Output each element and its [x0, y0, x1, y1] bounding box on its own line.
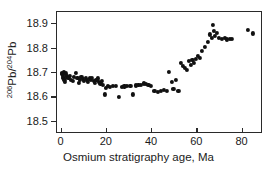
data-point [149, 84, 153, 88]
y-axis-tick-label: 18.5 [27, 115, 48, 127]
x-axis-tick-label: 80 [236, 135, 248, 147]
data-point [198, 56, 202, 60]
data-point [200, 49, 204, 53]
data-point [117, 95, 121, 99]
x-axis-tick-label: 40 [145, 135, 157, 147]
data-point [77, 81, 81, 85]
y-axis-label-numerator-superscript: 206 [4, 86, 13, 99]
data-point [192, 61, 196, 65]
x-axis-tick [61, 128, 62, 133]
data-point [250, 31, 254, 35]
x-axis-tick-label: 60 [190, 135, 202, 147]
data-point [164, 88, 168, 92]
data-point [176, 88, 180, 92]
x-axis-tick-label: 20 [100, 135, 112, 147]
data-point [167, 69, 171, 73]
x-axis-label: Osmium stratigraphy age, Ma [0, 151, 277, 163]
data-point [74, 71, 78, 75]
y-axis-label-denominator-superscript: 204 [4, 56, 13, 69]
x-axis-tick [196, 128, 197, 133]
plot-area-frame [56, 11, 262, 133]
data-point [102, 92, 106, 96]
x-axis-tick-label: 0 [57, 135, 63, 147]
data-point [211, 23, 215, 27]
data-point [246, 28, 250, 32]
data-point [230, 37, 234, 41]
x-axis-tick [106, 128, 107, 133]
scatter-chart-figure: 206Pb/204Pb 18.518.618.718.818.9 0204060… [0, 0, 277, 178]
data-point [63, 80, 67, 84]
data-point [128, 84, 132, 88]
y-axis-tick-label: 18.8 [27, 42, 48, 54]
data-point [215, 30, 219, 34]
data-point [171, 87, 175, 91]
y-axis-tick-label: 18.6 [27, 90, 48, 102]
data-points-layer [57, 12, 261, 132]
y-axis-tick-label: 18.7 [27, 66, 48, 78]
data-point [71, 79, 75, 83]
y-axis-label: 206Pb/204Pb [6, 42, 18, 99]
y-axis-label-denominator-base: Pb [6, 42, 18, 56]
y-axis-label-container: 206Pb/204Pb [2, 0, 22, 140]
data-point [185, 68, 189, 72]
x-axis-tick [151, 128, 152, 133]
y-axis-label-numerator-base: Pb/ [6, 68, 18, 85]
x-axis-tick [242, 128, 243, 133]
y-axis-tick-label: 18.9 [27, 17, 48, 29]
data-point [203, 45, 207, 49]
data-point [114, 84, 118, 88]
data-point [174, 77, 178, 81]
data-point [131, 92, 135, 96]
data-point [206, 40, 210, 44]
